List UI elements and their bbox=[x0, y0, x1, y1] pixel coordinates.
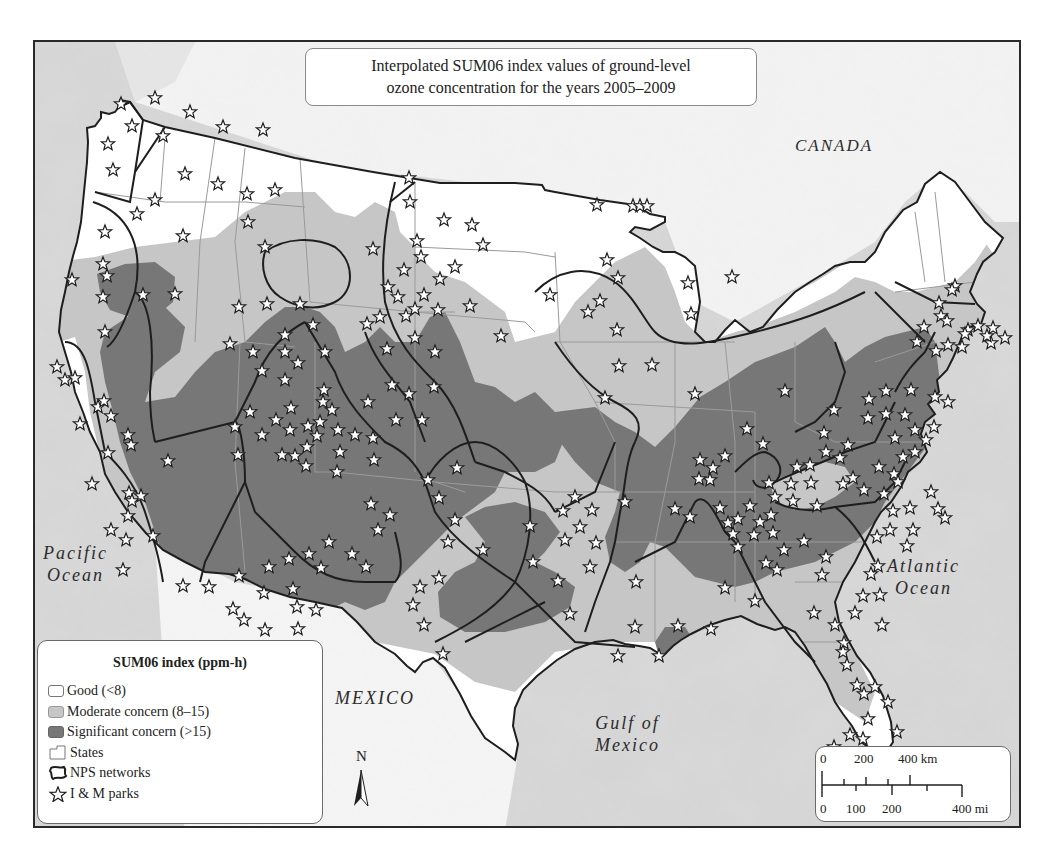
gulf-line-1: Gulf of bbox=[595, 712, 660, 734]
legend-item-nps-networks: NPS networks bbox=[38, 763, 322, 784]
pacific-line-2: Ocean bbox=[43, 564, 108, 586]
label-pacific-ocean: Pacific Ocean bbox=[43, 542, 108, 586]
legend-label: NPS networks bbox=[70, 765, 151, 781]
atlantic-line-2: Ocean bbox=[887, 577, 960, 599]
legend-title: SUM06 index (ppm-h) bbox=[38, 655, 322, 671]
legend-label: Good (<8) bbox=[67, 683, 126, 699]
swatch-light-gray-icon bbox=[48, 706, 64, 718]
map-title: Interpolated SUM06 index values of groun… bbox=[305, 48, 757, 106]
title-line-1: Interpolated SUM06 index values of groun… bbox=[306, 55, 756, 77]
scale-mi-100: 100 bbox=[846, 801, 866, 817]
legend-item-states: States bbox=[38, 743, 322, 764]
legend-item-parks: I & M parks bbox=[38, 784, 322, 805]
pacific-line-1: Pacific bbox=[43, 542, 108, 564]
north-arrow: N bbox=[350, 748, 380, 818]
legend: SUM06 index (ppm-h) Good (<8) Moderate c… bbox=[37, 640, 323, 824]
north-arrow-icon bbox=[350, 768, 380, 818]
map-frame: Interpolated SUM06 index values of groun… bbox=[33, 40, 1021, 828]
swatch-dark-gray-icon bbox=[48, 726, 64, 738]
legend-label: Moderate concern (8–15) bbox=[67, 704, 209, 720]
north-label: N bbox=[356, 748, 367, 765]
label-atlantic-ocean: Atlantic Ocean bbox=[887, 555, 960, 599]
state-outline-icon bbox=[48, 745, 68, 761]
legend-item-moderate: Moderate concern (8–15) bbox=[38, 702, 322, 723]
label-mexico: MEXICO bbox=[335, 688, 415, 709]
legend-item-significant: Significant concern (>15) bbox=[38, 722, 322, 743]
scale-mi-200: 200 bbox=[882, 801, 902, 817]
label-gulf-of-mexico: Gulf of Mexico bbox=[595, 712, 660, 756]
legend-label: States bbox=[70, 745, 103, 761]
scale-mi-400: 400 mi bbox=[952, 801, 988, 817]
gulf-line-2: Mexico bbox=[595, 734, 660, 756]
label-canada: CANADA bbox=[795, 136, 873, 156]
scale-mi-0: 0 bbox=[820, 801, 827, 817]
swatch-white-icon bbox=[48, 685, 64, 697]
scale-bar: 0 200 400 km 0 100 200 400 mi bbox=[815, 746, 1011, 822]
atlantic-line-1: Atlantic bbox=[887, 555, 960, 577]
title-line-2: ozone concentration for the years 2005–2… bbox=[306, 77, 756, 99]
star-icon bbox=[48, 786, 68, 802]
legend-label: I & M parks bbox=[70, 786, 139, 802]
legend-label: Significant concern (>15) bbox=[67, 724, 211, 740]
legend-item-good: Good (<8) bbox=[38, 681, 322, 702]
network-outline-icon bbox=[48, 765, 68, 781]
